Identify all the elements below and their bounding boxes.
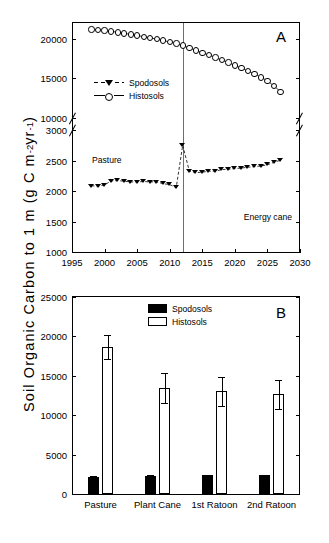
data-point-spodosols — [101, 183, 107, 187]
data-point-histosols — [115, 29, 121, 35]
x-tick-label: 2025 — [257, 257, 278, 268]
error-bar-cap-bottom — [104, 359, 111, 360]
y-axis-label-text: Soil Organic Carbon to 1 m (g C m — [21, 153, 37, 412]
data-point-spodosols — [244, 165, 250, 169]
x-tick-mark — [170, 249, 171, 253]
data-point-spodosols — [271, 160, 277, 164]
panel-a-bottom-axis — [72, 252, 300, 253]
data-point-spodosols — [121, 179, 127, 183]
data-point-spodosols — [166, 182, 172, 186]
y-tick-mark — [296, 78, 300, 79]
data-point-histosols — [173, 40, 179, 46]
y-axis-exponent-2: -1 — [24, 122, 35, 130]
filled-swatch-icon — [148, 304, 167, 313]
legend-key-histosols — [94, 90, 124, 101]
y-tick-label: 1500 — [46, 216, 67, 227]
data-point-spodosols — [95, 184, 101, 188]
bar-spodosols-pasture — [88, 477, 99, 494]
data-point-histosols — [101, 27, 107, 33]
data-point-histosols — [180, 42, 186, 48]
panel-a: 10000150002000010001500200025003000 1995… — [72, 22, 300, 253]
legend-item-spodosols-b: Spodosols — [148, 303, 212, 314]
data-point-spodosols — [160, 181, 166, 185]
x-tick-mark — [72, 249, 73, 253]
error-bar-cap-bottom — [204, 476, 211, 477]
legend-label-histosols-b: Histosols — [172, 317, 207, 327]
panel-a-legend: Spodosols Histosols — [94, 77, 169, 103]
y-tick-mark — [72, 415, 76, 416]
legend-label-histosols: Histosols — [129, 91, 164, 101]
data-point-spodosols — [192, 170, 198, 174]
data-point-histosols — [88, 26, 94, 32]
x-tick-mark — [137, 249, 138, 253]
y-tick-label: 10000 — [41, 410, 67, 421]
annotation-pasture: Pasture — [92, 155, 122, 165]
y-axis-label-mid: yr — [21, 130, 37, 144]
y-tick-mark — [72, 78, 76, 79]
y-tick-mark — [296, 297, 300, 298]
data-point-histosols — [225, 59, 231, 65]
y-tick-mark — [296, 494, 300, 495]
data-point-histosols — [186, 45, 192, 51]
annotation-energy-cane: Energy cane — [244, 212, 292, 222]
y-tick-mark — [72, 39, 76, 40]
panel-a-right-axis — [299, 22, 300, 253]
figure-root: Soil Organic Carbon to 1 m (g C m-2 yr-1… — [0, 0, 329, 543]
error-bar-cap-bottom — [147, 476, 154, 477]
data-point-histosols — [264, 78, 270, 84]
x-tick-mark — [202, 249, 203, 253]
data-point-histosols — [128, 31, 134, 37]
category-label-2nd-ratoon: 2nd Ratoon — [247, 499, 296, 510]
x-tick-label: 2030 — [289, 257, 310, 268]
data-point-spodosols — [186, 169, 192, 173]
data-point-spodosols — [238, 166, 244, 170]
y-tick-mark — [72, 297, 76, 298]
data-point-spodosols — [212, 169, 218, 173]
data-point-histosols — [108, 28, 114, 34]
x-tick-label: 1995 — [61, 257, 82, 268]
error-bar-cap-top — [161, 373, 168, 374]
x-tick-mark — [300, 249, 301, 253]
error-bar-line — [279, 380, 280, 409]
y-tick-label: 20000 — [41, 33, 67, 44]
y-tick-mark — [72, 222, 76, 223]
open-circle-icon — [105, 93, 113, 101]
y-tick-label: 2500 — [46, 155, 67, 166]
error-bar-cap-top — [218, 377, 225, 378]
x-tick-mark — [235, 249, 236, 253]
x-tick-label: 2010 — [159, 257, 180, 268]
panel-b-left-axis — [72, 296, 73, 495]
data-point-spodosols — [114, 178, 120, 182]
y-tick-label: 2000 — [46, 186, 67, 197]
error-bar-cap-top — [104, 335, 111, 336]
x-tick-label: 2000 — [94, 257, 115, 268]
data-point-spodosols — [179, 143, 185, 147]
bar-spodosols-2nd-ratoon — [259, 475, 270, 494]
y-tick-mark — [72, 376, 76, 377]
y-tick-mark — [72, 336, 76, 337]
bar-histosols-pasture — [102, 347, 113, 494]
y-tick-label: 1000 — [46, 247, 67, 258]
error-bar-cap-bottom — [218, 406, 225, 407]
y-tick-mark — [296, 376, 300, 377]
data-point-spodosols — [153, 180, 159, 184]
transition-divider-line — [183, 23, 184, 252]
data-point-spodosols — [127, 180, 133, 184]
error-bar-cap-bottom — [90, 478, 97, 479]
y-tick-mark — [296, 455, 300, 456]
data-point-spodosols — [231, 166, 237, 170]
data-point-spodosols — [264, 162, 270, 166]
y-tick-mark — [296, 191, 300, 192]
panel-b-top-axis — [72, 296, 300, 297]
legend-item-spodosols: Spodosols — [94, 77, 169, 88]
data-point-histosols — [121, 30, 127, 36]
panel-b-right-axis — [299, 296, 300, 495]
y-tick-label: 25000 — [41, 292, 67, 303]
data-point-histosols — [212, 54, 218, 60]
legend-item-histosols-b: Histosols — [148, 316, 212, 327]
panel-a-top-axis — [72, 22, 300, 23]
data-point-spodosols — [251, 164, 257, 168]
data-point-histosols — [277, 89, 283, 95]
data-point-spodosols — [199, 170, 205, 174]
data-point-spodosols — [225, 167, 231, 171]
